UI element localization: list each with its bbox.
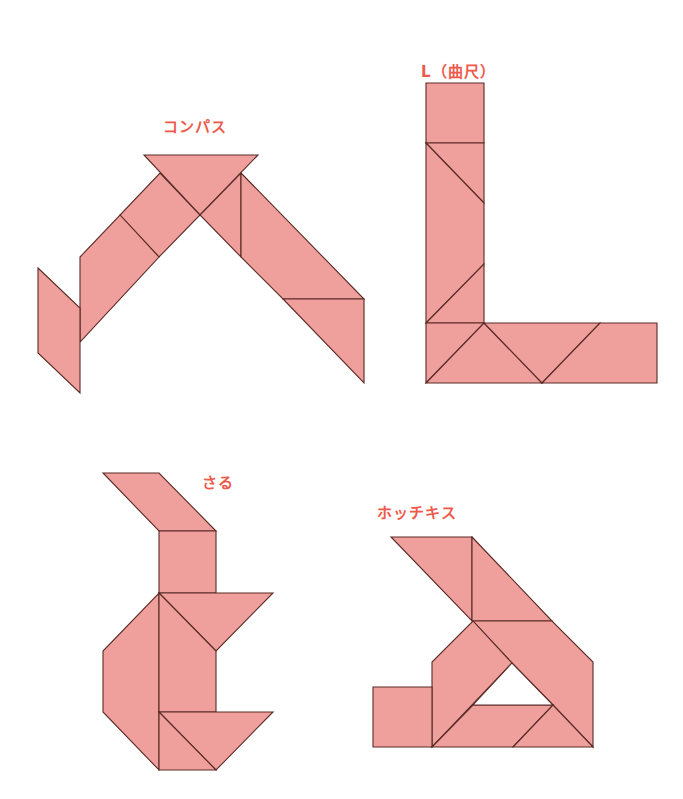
figure-monkey: さる [103, 473, 273, 770]
tangram-piece-neck-square [159, 531, 216, 593]
figure-label-l-square: L（曲尺） [421, 63, 496, 81]
figure-label-monkey: さる [202, 474, 234, 492]
tangram-piece-top-square [426, 83, 484, 143]
tangram-piece-left-parallelogram [38, 268, 80, 393]
tangram-piece-top-right-triangle [472, 537, 552, 621]
figure-stapler: ホッチキス [373, 504, 593, 747]
figure-label-compass: コンパス [163, 118, 227, 136]
figure-compass: コンパス [38, 118, 364, 393]
tangram-piece-head-parallelogram [103, 473, 216, 531]
tangram-piece-right-bottom-triangle [283, 299, 364, 383]
tangram-piece-right-large-triangle [241, 173, 364, 299]
figure-l-square: L（曲尺） [421, 63, 657, 383]
tangram-piece-top-left-triangle [391, 537, 472, 621]
tangram-canvas: コンパスL（曲尺）さるホッチキス [0, 0, 683, 799]
tangram-piece-body-left [103, 593, 159, 770]
figure-label-stapler: ホッチキス [377, 504, 457, 522]
tangram-piece-left-square [373, 687, 432, 747]
